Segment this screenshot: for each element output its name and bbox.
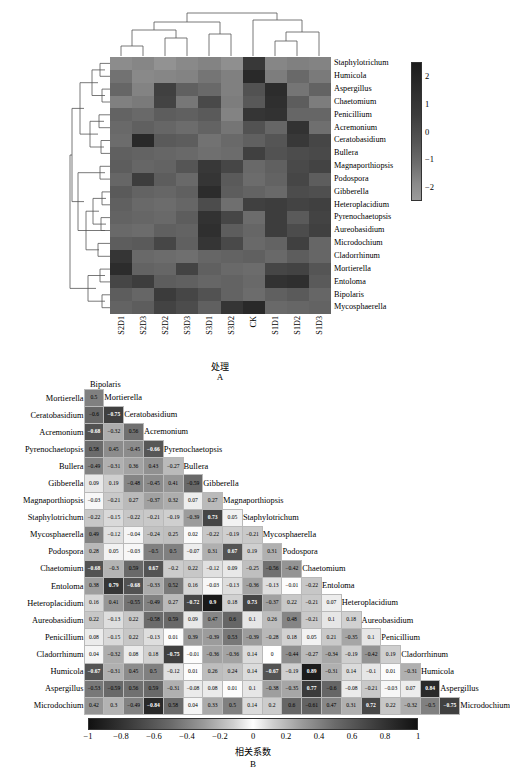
heatmap-cell [309, 83, 331, 96]
heatmap-cell [265, 211, 287, 224]
heatmap-cell [132, 237, 154, 250]
corr-matrix-row: Humicola−0.67−0.310.450.5−0.120.010.260.… [0, 663, 510, 680]
heatmap-cell [176, 83, 198, 96]
corr-cell: 0.18 [143, 646, 163, 663]
heatmap-cell [110, 70, 132, 83]
heatmap-cell [265, 198, 287, 211]
corr-cell: 0.73 [242, 595, 262, 612]
heatmap-cell [287, 70, 309, 83]
corr-diagonal-label: Aspergillus [440, 680, 510, 697]
corr-cell: −0.1 [361, 663, 381, 680]
colorbar-tick-label: 0.6 [347, 731, 358, 741]
corr-diagonal-label: Gibberella [203, 475, 510, 492]
corr-cell: 0.52 [163, 578, 183, 595]
heatmap-cell [154, 108, 176, 121]
heatmap-cell [154, 70, 176, 83]
corr-cell: 0.19 [381, 646, 401, 663]
corr-cell: 0.1 [242, 680, 262, 697]
heatmap-cell [154, 121, 176, 134]
colorbar-tick-label: −1 [83, 731, 92, 741]
heatmap-cell [110, 224, 132, 237]
panel-b-colorbar [88, 718, 418, 730]
corr-cell: 0.58 [163, 697, 183, 714]
corr-matrix-table: Mortierella0.5MortierellaCeratobasidium−… [0, 389, 510, 715]
heatmap-cell [309, 211, 331, 224]
heatmap-cell [265, 250, 287, 263]
heatmap-cell [110, 121, 132, 134]
corr-cell: 0.05 [302, 629, 322, 646]
corr-row-label: Gibberella [0, 475, 84, 492]
corr-cell: −0.27 [163, 458, 183, 475]
heatmap-cell [287, 121, 309, 134]
corr-cell: −0.31 [322, 663, 342, 680]
heatmap-cell [110, 211, 132, 224]
heatmap-cell [221, 263, 243, 276]
heatmap-cell [132, 288, 154, 301]
corr-cell: −0.48 [124, 475, 144, 492]
corr-cell: 0.1 [361, 629, 381, 646]
heatmap-row-label: Aureobasidium [334, 224, 430, 237]
corr-cell: 0.77 [302, 680, 322, 697]
heatmap-cell [243, 211, 265, 224]
corr-diagonal-label: Penicillium [381, 629, 510, 646]
corr-cell: −0.55 [124, 595, 144, 612]
heatmap-column-label: S3D1 [205, 316, 214, 335]
corr-cell: −0.04 [124, 526, 144, 543]
corr-cell: −0.49 [143, 595, 163, 612]
heatmap-column-labels: S2D1S2D3S2D2S3D3S3D1S3D2CKS1D1S1D2S1D3 [110, 316, 331, 362]
corr-cell: −0.67 [262, 663, 282, 680]
panel-b-axis-title: 相关系数 [88, 745, 418, 758]
corr-cell: −0.15 [104, 509, 124, 526]
corr-cell: −0.15 [104, 629, 124, 646]
corr-matrix-row: Aspergillus−0.53−0.590.560.59−0.31−0.080… [0, 680, 510, 697]
corr-cell: −0.19 [341, 646, 361, 663]
heatmap-cell [110, 275, 132, 288]
heatmap-cell [154, 147, 176, 160]
panel-a-heatmap: StaphylotrichumHumicolaAspergillusChaeto… [0, 0, 510, 378]
corr-row-label: Cladorrhinum [0, 646, 84, 663]
corr-cell: −0.03 [203, 578, 223, 595]
colorbar-tick-label: −0.4 [179, 731, 194, 741]
corr-cell: −0.03 [84, 492, 104, 509]
heatmap-cell [243, 173, 265, 186]
heatmap-cell [132, 134, 154, 147]
corr-cell: 0.07 [183, 492, 203, 509]
heatmap-cell [110, 83, 132, 96]
heatmap-cell [110, 108, 132, 121]
heatmap-cell [154, 288, 176, 301]
colorbar-tick-label: 0.2 [281, 731, 292, 741]
corr-cell: 0.43 [143, 458, 163, 475]
heatmap-cell [243, 83, 265, 96]
heatmap-column-label: S1D1 [271, 316, 280, 335]
corr-cell: 0.21 [322, 629, 342, 646]
heatmap-cell [265, 134, 287, 147]
corr-cell: 0.14 [341, 663, 361, 680]
panel-b-correlation-matrix: Bipolaris Mortierella0.5MortierellaCerat… [0, 380, 510, 783]
heatmap-cell [198, 70, 220, 83]
heatmap-cell [176, 147, 198, 160]
heatmap-cell [198, 224, 220, 237]
heatmap-cell [265, 96, 287, 109]
corr-cell: 0.67 [143, 560, 163, 577]
corr-cell: −0.08 [183, 680, 203, 697]
corr-cell: −0.68 [84, 424, 104, 441]
heatmap-cell [243, 134, 265, 147]
corr-matrix-row: Ceratobasidium−0.6−0.75Ceratobasidium [0, 407, 510, 424]
heatmap-cell [198, 147, 220, 160]
heatmap-column-label: S2D2 [161, 316, 170, 335]
heatmap-column-label: S1D2 [293, 316, 302, 335]
heatmap-cell [309, 160, 331, 173]
colorbar-tick-label: −2 [425, 182, 434, 192]
heatmap-column-label: S3D3 [183, 316, 192, 335]
corr-row-label: Staphylotrichum [0, 509, 84, 526]
corr-cell: 0.41 [104, 595, 124, 612]
corr-diagonal-label: Chaetomium [302, 560, 510, 577]
corr-cell: −0.6 [84, 407, 104, 424]
heatmap-cell [287, 275, 309, 288]
corr-cell: 0.24 [223, 663, 243, 680]
heatmap-cell [287, 237, 309, 250]
corr-cell: −0.32 [104, 646, 124, 663]
corr-cell: −0.08 [341, 680, 361, 697]
corr-cell: −0.13 [262, 578, 282, 595]
corr-cell: 0.14 [242, 646, 262, 663]
